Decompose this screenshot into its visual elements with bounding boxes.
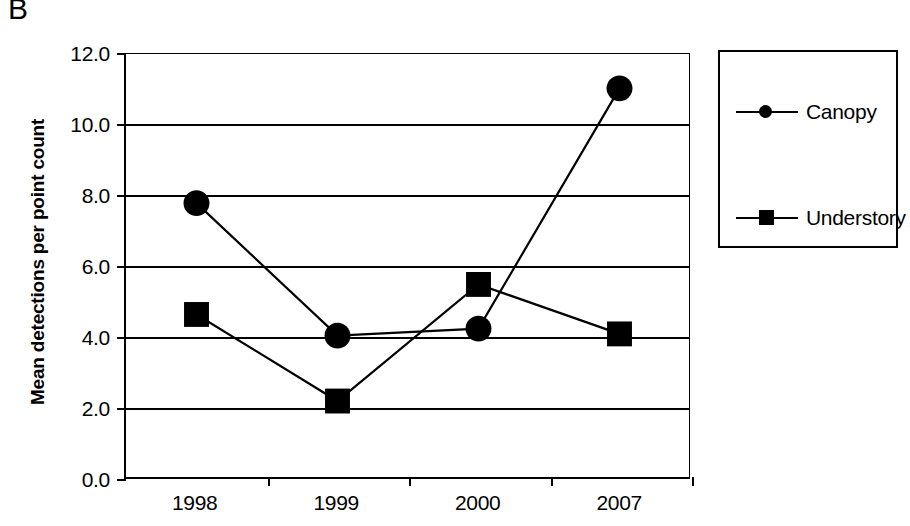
- legend-entry-canopy: Canopy: [736, 98, 877, 124]
- legend-label-understory: Understory: [806, 207, 906, 228]
- legend-entry-understory: Understory: [736, 204, 906, 230]
- legend-label-canopy: Canopy: [806, 101, 877, 122]
- circle-marker-icon: [759, 105, 772, 118]
- x-tick-label: 1998: [140, 492, 250, 513]
- legend-swatch-square: [736, 206, 798, 228]
- chart-figure: B Mean detections per point count 12.010…: [0, 0, 910, 526]
- legend: Canopy Understory: [718, 50, 898, 248]
- x-tick-label: 1999: [281, 492, 391, 513]
- square-marker-icon: [759, 210, 774, 225]
- x-tick-label: 2000: [423, 492, 533, 513]
- x-tick-label: 2007: [564, 492, 674, 513]
- legend-swatch-circle: [736, 100, 798, 122]
